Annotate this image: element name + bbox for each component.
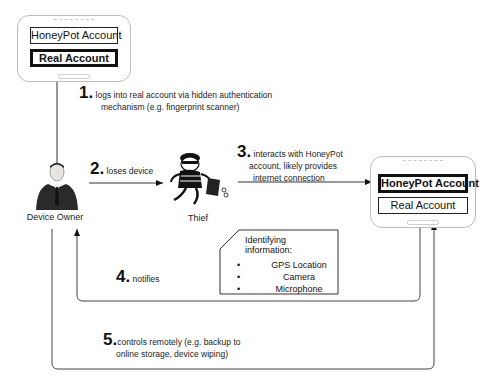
step-5-text: 5.controls remotely (e.g. backup to onli… — [103, 334, 241, 360]
step-text: controls remotely (e.g. backup to — [117, 337, 240, 347]
step-1-text: 1. logs into real account via hidden aut… — [79, 87, 272, 113]
step-text: internet connection — [237, 173, 325, 183]
real-account-box: Real Account — [378, 197, 468, 214]
bullet-icon: • — [237, 259, 240, 271]
step-text: notifies — [133, 274, 160, 284]
info-item: •Camera — [263, 271, 335, 283]
bullet-icon: • — [237, 271, 240, 283]
device-owner-label: Device Owner — [10, 212, 100, 222]
step-text: online storage, device wiping) — [103, 349, 228, 359]
home-button-icon — [407, 220, 439, 225]
step-text: account, likely provides — [237, 161, 337, 171]
step-number: 5. — [103, 330, 117, 349]
step-text: mechanism (e.g. fingerprint scanner) — [79, 102, 239, 112]
step-number: 4. — [116, 267, 130, 286]
identifying-info-box: Identifying information: •GPS Location •… — [245, 235, 335, 295]
speaker-icon — [54, 19, 94, 22]
left-device: HoneyPot Account Real Account — [17, 15, 131, 82]
thief-icon — [168, 150, 230, 206]
bullet-icon: • — [237, 283, 240, 295]
speaker-icon — [403, 160, 443, 163]
info-item: •Microphone — [263, 283, 335, 295]
step-4-text: 4. notifies — [116, 271, 160, 285]
step-number: 2. — [90, 159, 104, 178]
info-item: •GPS Location — [263, 259, 335, 271]
step-text: interacts with HoneyPot — [254, 149, 343, 159]
device-owner-icon — [34, 160, 80, 210]
step-number: 3. — [237, 142, 251, 161]
step-2-text: 2. loses device — [90, 163, 153, 177]
right-device: HoneyPot Account Real Account — [370, 156, 476, 228]
step-text: logs into real account via hidden authen… — [96, 90, 273, 100]
step-number: 1. — [79, 83, 93, 102]
thief-label: Thief — [178, 213, 218, 223]
honeypot-account-box: HoneyPot Account — [378, 174, 468, 193]
honeypot-account-box: HoneyPot Account — [30, 27, 118, 44]
home-button-icon — [58, 74, 90, 79]
step-text: loses device — [107, 166, 154, 176]
step-3-text: 3. interacts with HoneyPot account, like… — [237, 146, 343, 184]
real-account-box: Real Account — [30, 49, 118, 67]
info-title: Identifying information: — [245, 235, 335, 255]
